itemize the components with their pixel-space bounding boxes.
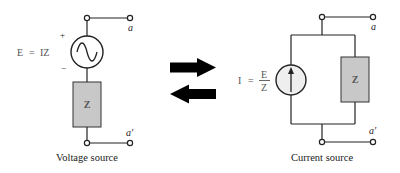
terminal-node-icon bbox=[84, 15, 89, 20]
fraction-numerator: E bbox=[261, 69, 267, 80]
voltage-equation-lhs: E bbox=[17, 47, 23, 58]
plus-sign: + bbox=[60, 30, 65, 40]
terminal-node-icon bbox=[319, 14, 324, 19]
fraction-denominator: Z bbox=[261, 82, 267, 93]
conversion-arrows bbox=[170, 58, 216, 104]
terminal-a-prime-label: a′ bbox=[126, 127, 134, 138]
arrow-left-icon bbox=[170, 85, 216, 104]
voltage-equation-eq: = bbox=[29, 47, 35, 58]
source-conversion-diagram: Z a a′ + − E = IZ Voltage source bbox=[0, 0, 400, 173]
arrow-right-icon bbox=[170, 58, 216, 77]
current-source-circuit: Z a a′ I = E Z Current source bbox=[238, 14, 377, 163]
ac-sine-icon bbox=[71, 36, 103, 68]
minus-sign: − bbox=[61, 63, 66, 73]
voltage-source-caption: Voltage source bbox=[56, 152, 118, 163]
terminal-a-label: a bbox=[371, 21, 376, 32]
terminal-node-icon bbox=[319, 139, 324, 144]
voltage-source-circuit: Z a a′ + − E = IZ Voltage source bbox=[17, 15, 134, 163]
impedance-label: Z bbox=[84, 99, 91, 110]
terminal-a-prime-icon bbox=[370, 139, 375, 144]
current-arrow-up-icon bbox=[276, 65, 306, 95]
terminal-a-prime-icon bbox=[127, 140, 132, 145]
current-equation-eq: = bbox=[248, 75, 254, 86]
voltage-equation-rhs: IZ bbox=[40, 47, 49, 58]
current-source-caption: Current source bbox=[291, 152, 353, 163]
impedance-label: Z bbox=[352, 74, 359, 85]
terminal-node-icon bbox=[84, 140, 89, 145]
terminal-a-icon bbox=[370, 14, 375, 19]
current-equation-lhs: I bbox=[238, 75, 241, 86]
terminal-a-label: a bbox=[128, 22, 133, 33]
terminal-a-icon bbox=[127, 15, 132, 20]
terminal-a-prime-label: a′ bbox=[369, 125, 377, 136]
